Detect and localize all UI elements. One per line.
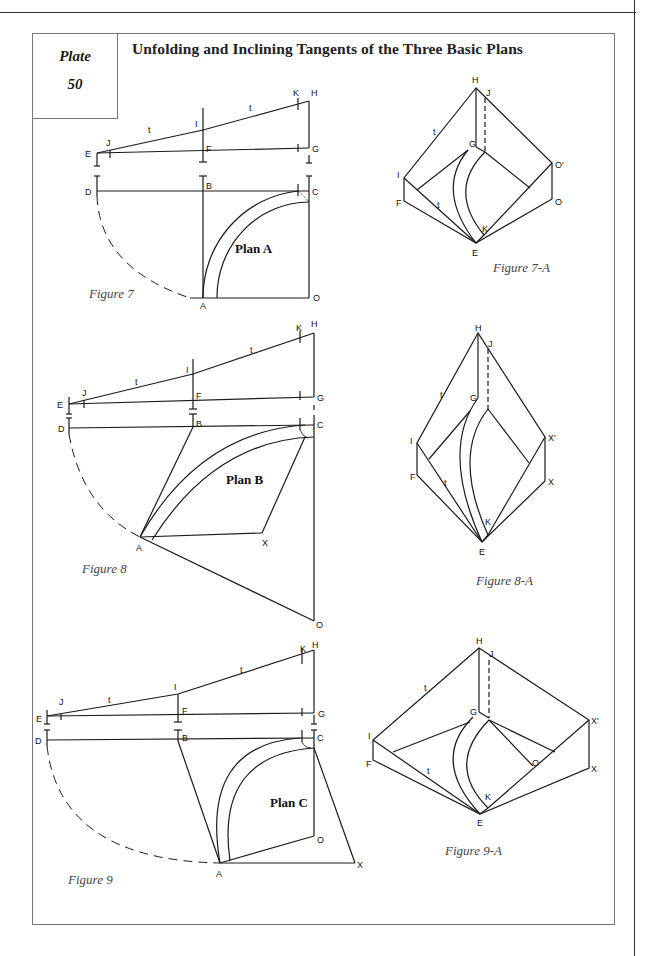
point-label-f: F <box>182 706 188 716</box>
point-label-h: H <box>311 88 318 98</box>
point-label-j: J <box>106 138 111 148</box>
point-label-e: E <box>479 547 485 557</box>
point-label-h: H <box>472 75 479 85</box>
point-label-x-prime: X' <box>548 433 556 443</box>
figure-8: E J I F K H G D B C A X O t t Plan B Fig… <box>57 319 324 630</box>
point-label-i: I <box>410 436 413 446</box>
plan-a-label: Plan A <box>235 241 273 256</box>
point-label-f: F <box>366 759 372 769</box>
point-label-h: H <box>311 319 318 329</box>
point-label-x: X <box>262 538 268 548</box>
figure-7a-caption: Figure 7-A <box>492 260 550 275</box>
point-label-d: D <box>35 736 42 746</box>
point-label-h: H <box>312 640 319 650</box>
figure-7-caption: Figure 7 <box>88 286 134 301</box>
point-label-c: C <box>317 733 324 743</box>
point-label-j: J <box>59 697 64 707</box>
figure-8-caption: Figure 8 <box>81 561 127 576</box>
point-label-o: O <box>555 197 562 207</box>
plate-diagrams: E J I F K H G D B C A O t t Plan A Figur… <box>0 0 646 956</box>
plan-b-label: Plan B <box>226 472 264 487</box>
point-label-j: J <box>82 388 87 398</box>
point-label-c: C <box>317 420 324 430</box>
figure-9a: H J G I F O X' X K E t t Figure 9-A <box>366 636 599 858</box>
point-label-b: B <box>206 181 212 191</box>
point-label-k: K <box>300 644 306 654</box>
point-label-h: H <box>476 636 483 646</box>
plan-c-label: Plan C <box>270 795 308 810</box>
point-label-i: I <box>397 170 400 180</box>
point-label-i: I <box>186 365 189 375</box>
figure-8a-caption: Figure 8-A <box>475 573 533 588</box>
point-label-o: O <box>316 620 323 630</box>
point-label-g: G <box>470 707 477 717</box>
point-label-g: G <box>470 393 477 403</box>
figure-9: E J I F K H G D B C O A X t t Plan C Fig… <box>35 640 363 887</box>
point-label-f: F <box>196 391 202 401</box>
tangent-label: t <box>424 683 427 693</box>
point-label-f: F <box>410 472 416 482</box>
point-label-o: O <box>317 835 324 845</box>
point-label-j: J <box>488 339 493 349</box>
tangent-label: t <box>148 125 151 135</box>
point-label-a: A <box>136 543 142 553</box>
point-label-e: E <box>472 248 478 258</box>
point-label-f: F <box>396 198 402 208</box>
point-label-i: I <box>174 682 177 692</box>
point-label-j: J <box>489 649 494 659</box>
point-label-x: X <box>357 860 363 870</box>
point-label-a: A <box>216 869 222 879</box>
point-label-k: K <box>485 792 491 802</box>
point-label-i: I <box>368 731 371 741</box>
point-label-i: I <box>195 119 198 129</box>
point-label-k: K <box>296 323 302 333</box>
point-label-o: O <box>313 293 320 303</box>
tangent-label: t <box>249 103 252 113</box>
figure-9-caption: Figure 9 <box>67 872 113 887</box>
point-label-f: F <box>206 144 212 154</box>
point-label-k: K <box>293 88 299 98</box>
tangent-label: t <box>427 766 430 776</box>
figure-9a-caption: Figure 9-A <box>444 843 502 858</box>
point-label-a: A <box>200 301 206 311</box>
figure-8a: H J G I F X' X K E t t Figure 8-A <box>410 323 556 588</box>
point-label-e: E <box>36 714 42 724</box>
tangent-label: t <box>135 377 138 387</box>
point-label-x: X <box>548 477 554 487</box>
point-label-o-prime: O' <box>555 160 564 170</box>
point-label-k: K <box>485 517 491 527</box>
point-label-o: O <box>532 758 539 768</box>
point-label-g: G <box>318 709 325 719</box>
point-label-j: J <box>486 88 491 98</box>
tangent-label: t <box>440 390 443 400</box>
point-label-c: C <box>312 187 319 197</box>
point-label-g: G <box>317 393 324 403</box>
point-label-e: E <box>85 149 91 159</box>
point-label-e: E <box>57 400 63 410</box>
point-label-b: B <box>196 419 202 429</box>
point-label-x: X <box>591 764 597 774</box>
tangent-label: t <box>108 695 111 705</box>
tangent-label: t <box>444 478 447 488</box>
point-label-b: B <box>182 733 188 743</box>
point-label-g: G <box>469 139 476 149</box>
tangent-label: t <box>433 127 436 137</box>
figure-7: E J I F K H G D B C A O t t Plan A Figur… <box>85 88 320 311</box>
point-label-x-prime: X' <box>591 716 599 726</box>
point-label-e: E <box>477 818 483 828</box>
point-label-d: D <box>85 187 92 197</box>
tangent-label: t <box>437 200 440 210</box>
point-label-g: G <box>312 144 319 154</box>
point-label-h: H <box>475 323 482 333</box>
point-label-d: D <box>58 424 65 434</box>
point-label-k: K <box>482 224 488 234</box>
figure-7a: H J G I F O' O K E t t Figure 7-A <box>396 75 564 275</box>
